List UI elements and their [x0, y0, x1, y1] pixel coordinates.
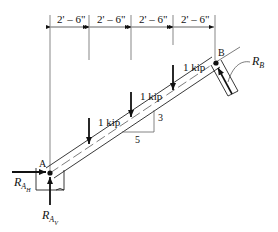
slope-run-label: 5 [135, 135, 140, 145]
dimension-label-4: 2' – 6" [181, 14, 209, 25]
point-b-label: B [218, 48, 225, 58]
reaction-rav-label: RAV [42, 209, 58, 226]
load-label-1: 1 kip [98, 117, 120, 128]
slope-rise-label: 3 [158, 113, 163, 123]
load-label-2: 1 kip [140, 91, 162, 102]
load-label-3: 1 kip [183, 62, 205, 73]
beam [46, 57, 220, 178]
dimension-label-2: 2' – 6" [97, 14, 125, 25]
point-a-label: A [39, 159, 46, 169]
diagram-canvas: 2' – 6" 2' – 6" 2' – 6" 2' – 6" 1 kip 1 … [0, 0, 278, 232]
dimension-label-3: 2' – 6" [139, 14, 167, 25]
slope-triangle [122, 110, 154, 132]
dimension-label-1: 2' – 6" [57, 14, 85, 25]
reaction-rb-label: RB [252, 55, 264, 70]
reaction-rah-label: RAH [14, 176, 31, 193]
beam-drawing [0, 0, 278, 232]
